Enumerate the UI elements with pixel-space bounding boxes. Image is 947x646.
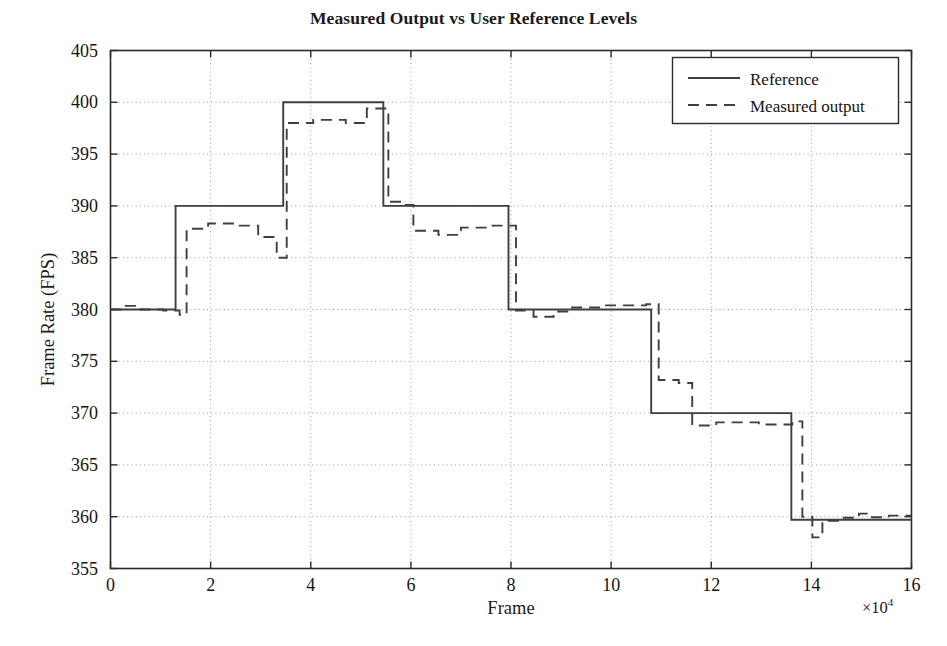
x-tick-label: 12 <box>702 575 720 596</box>
y-tick-label: 360 <box>40 506 98 527</box>
x-tick-label: 4 <box>306 575 315 596</box>
x-tick-label: 10 <box>602 575 620 596</box>
x-axis-exponent: ×104 <box>862 596 893 618</box>
x-exponent-power: 4 <box>888 596 894 608</box>
chart-figure: Measured Output vs User Reference Levels… <box>0 0 947 646</box>
plot-canvas: ReferenceMeasured output <box>0 0 947 646</box>
legend-label: Reference <box>750 70 819 89</box>
y-tick-label: 400 <box>40 92 98 113</box>
x-tick-label: 8 <box>507 575 516 596</box>
legend-label: Measured output <box>750 97 865 116</box>
x-tick-label: 14 <box>802 575 820 596</box>
legend: ReferenceMeasured output <box>673 58 899 124</box>
x-axis-label: Frame <box>110 598 912 619</box>
y-tick-label: 355 <box>40 558 98 579</box>
x-tick-label: 2 <box>206 575 215 596</box>
y-tick-label: 365 <box>40 454 98 475</box>
x-tick-label: 16 <box>903 575 921 596</box>
y-axis-label: Frame Rate (FPS) <box>38 210 59 430</box>
x-tick-label: 0 <box>106 575 115 596</box>
y-tick-label: 395 <box>40 144 98 165</box>
x-exponent-base: ×10 <box>862 598 888 617</box>
x-tick-label: 6 <box>406 575 415 596</box>
y-tick-label: 405 <box>40 40 98 61</box>
